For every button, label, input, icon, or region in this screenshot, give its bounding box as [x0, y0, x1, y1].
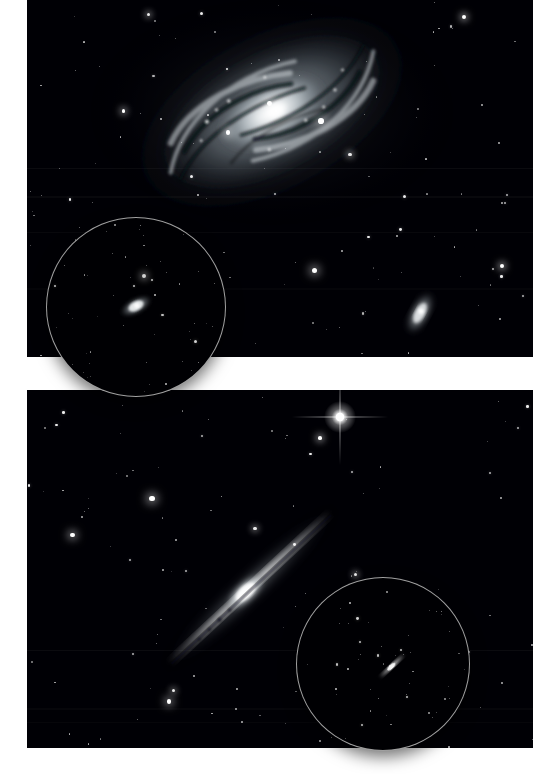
figure-root — [0, 0, 533, 774]
top-inset-circle[interactable] — [46, 217, 226, 397]
scan-band — [27, 196, 533, 198]
bottom-inset-circle[interactable] — [296, 577, 470, 751]
scan-band — [27, 168, 533, 169]
inset-spiral-galaxy — [47, 218, 225, 396]
inset-edge-on-galaxy — [297, 578, 469, 750]
